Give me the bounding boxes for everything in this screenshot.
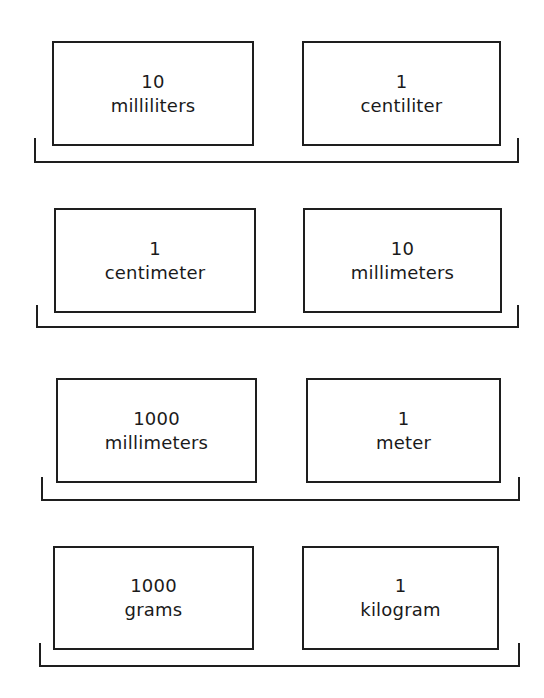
unit-label: grams [125,598,183,622]
row-1-left-box: 10 milliliters [52,41,254,146]
unit-label: millimeters [105,431,208,455]
quantity-label: 10 [141,70,164,94]
row-4-left-box: 1000 grams [53,546,254,650]
quantity-label: 1 [396,70,408,94]
row-4-bracket [39,643,520,667]
row-1-bracket [34,138,519,163]
row-4-right-box: 1 kilogram [302,546,499,650]
unit-label: millimeters [351,261,454,285]
unit-label: centiliter [361,94,443,118]
row-1-right-box: 1 centiliter [302,41,501,146]
row-2-bracket [36,305,519,328]
quantity-label: 1000 [133,407,180,431]
unit-label: milliliters [111,94,196,118]
unit-label: centimeter [105,261,206,285]
row-3-left-box: 1000 millimeters [56,378,257,483]
unit-label: meter [376,431,431,455]
quantity-label: 1 [398,407,410,431]
row-2-right-box: 10 millimeters [303,208,502,313]
row-2-left-box: 1 centimeter [54,208,256,313]
quantity-label: 1 [395,574,407,598]
quantity-label: 1 [149,237,161,261]
row-3-right-box: 1 meter [306,378,501,483]
row-3-bracket [41,477,520,501]
unit-label: kilogram [360,598,440,622]
quantity-label: 1000 [130,574,177,598]
quantity-label: 10 [391,237,414,261]
